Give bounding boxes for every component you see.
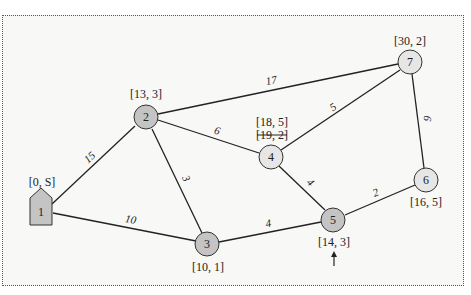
node-1[interactable]: 1 [0, S] <box>29 175 56 225</box>
node-1-tag: [0, S] <box>29 175 56 189</box>
weight-2-7: 17 <box>265 73 279 87</box>
weight-6-7: 6 <box>422 115 435 122</box>
node-5-tag: [14, 3] <box>318 235 350 249</box>
edge-4-5 <box>279 166 325 210</box>
edge-1-3 <box>53 213 196 241</box>
node-7-label: 7 <box>407 55 413 69</box>
node-2[interactable]: 2 [13, 3] <box>130 87 162 129</box>
node-2-label: 2 <box>143 110 149 124</box>
edge-2-3 <box>152 129 202 233</box>
weight-4-7: 5 <box>327 100 339 113</box>
node-3[interactable]: 3 [10, 1] <box>192 232 224 274</box>
node-5[interactable]: 5 [14, 3] <box>318 208 350 266</box>
node-1-label: 1 <box>38 205 44 219</box>
weight-4-5: 4 <box>305 176 318 189</box>
node-6-tag: [16, 5] <box>410 195 442 209</box>
node-4-label: 4 <box>268 150 274 164</box>
node-3-label: 3 <box>204 237 210 251</box>
edges <box>52 64 424 242</box>
node-5-label: 5 <box>330 213 336 227</box>
edge-6-7 <box>412 74 424 168</box>
node-7[interactable]: 7 [30, 2] <box>394 34 426 74</box>
node-6[interactable]: 6 [16, 5] <box>410 168 442 209</box>
node-6-label: 6 <box>423 173 429 187</box>
node-4-tag: [18, 5] <box>256 115 288 129</box>
graph-canvas: 15 10 3 6 17 4 4 5 2 6 1 [0, S] 2 [13, 3… <box>0 0 471 295</box>
weight-2-4: 6 <box>213 124 222 137</box>
edge-2-4 <box>158 120 259 153</box>
node-4[interactable]: 4 [18, 5] [19, 2] <box>256 115 288 169</box>
weight-2-3: 3 <box>180 172 194 184</box>
weight-5-6: 2 <box>371 186 381 199</box>
edge-4-7 <box>281 70 400 150</box>
edge-1-2 <box>52 126 135 204</box>
weight-3-5: 4 <box>264 217 272 230</box>
node-3-tag: [10, 1] <box>192 260 224 274</box>
node-2-tag: [13, 3] <box>130 87 162 101</box>
weight-1-3: 10 <box>124 212 138 226</box>
up-arrow-icon <box>331 251 337 266</box>
edge-5-6 <box>345 185 415 215</box>
edge-2-7 <box>158 64 398 114</box>
node-7-tag: [30, 2] <box>394 34 426 48</box>
